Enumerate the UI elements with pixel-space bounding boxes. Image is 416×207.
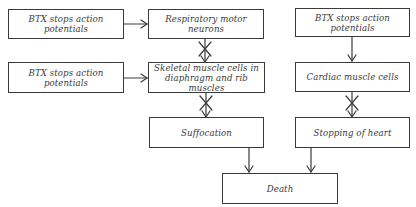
node-label: Skeletal muscle cells in diaphragm and r… bbox=[152, 63, 261, 93]
node-skeletal-muscle-cells: Skeletal muscle cells in diaphragm and r… bbox=[148, 62, 265, 93]
blocked-arrow-cardiac-to-stopping bbox=[346, 92, 358, 117]
arrow-btx1-to-respiratory bbox=[123, 20, 147, 28]
node-label: BTX stops action potentials bbox=[28, 14, 103, 34]
node-label: BTX stops action potentials bbox=[315, 13, 390, 33]
arrow-btx2-to-skeletal bbox=[123, 74, 147, 82]
node-label: Respiratory motor neurons bbox=[165, 14, 247, 34]
node-respiratory-motor-neurons: Respiratory motor neurons bbox=[148, 9, 264, 39]
arrow-suffocation-to-death bbox=[245, 148, 253, 172]
node-cardiac-muscle-cells: Cardiac muscle cells bbox=[295, 62, 410, 92]
node-label: Stopping of heart bbox=[313, 128, 391, 138]
node-death: Death bbox=[222, 173, 338, 204]
flowchart-canvas: BTX stops action potentials Respiratory … bbox=[0, 0, 416, 207]
node-btx-stops-action-potentials-3: BTX stops action potentials bbox=[295, 8, 410, 37]
node-btx-stops-action-potentials-2: BTX stops action potentials bbox=[8, 62, 124, 93]
node-label: Death bbox=[267, 184, 294, 194]
node-btx-stops-action-potentials-1: BTX stops action potentials bbox=[8, 9, 124, 39]
blocked-arrow-respiratory-to-skeletal bbox=[199, 38, 211, 62]
arrow-btx3-to-cardiac bbox=[348, 37, 356, 61]
node-suffocation: Suffocation bbox=[149, 117, 264, 148]
blocked-arrow-skeletal-to-suffocation bbox=[200, 92, 212, 117]
node-label: Cardiac muscle cells bbox=[306, 72, 398, 82]
node-stopping-of-heart: Stopping of heart bbox=[295, 117, 410, 148]
node-label: Suffocation bbox=[181, 128, 232, 138]
node-label: BTX stops action potentials bbox=[28, 68, 103, 88]
arrow-stopping-to-death bbox=[307, 148, 315, 172]
